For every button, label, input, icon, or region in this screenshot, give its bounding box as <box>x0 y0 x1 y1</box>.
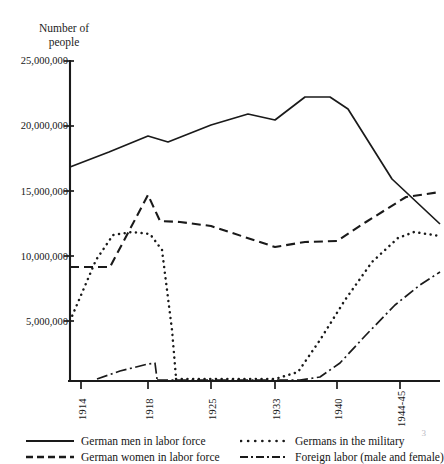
series-line-german-women <box>70 192 440 267</box>
series-line-military-ww2 <box>176 232 440 379</box>
series-line-military-ww1 <box>70 232 176 378</box>
legend-label-german-women: German women in labor force <box>81 451 220 463</box>
series-line-german-men <box>70 97 440 224</box>
legend-item-foreign-labor: Foreign labor (male and female) <box>240 449 444 464</box>
legend-item-german-men: German men in labor force <box>26 433 206 448</box>
legend-item-german-women: German women in labor force <box>26 449 220 464</box>
legend-label-military: Germans in the military <box>295 435 405 447</box>
legend-item-military: Germans in the military <box>240 433 405 448</box>
legend-label-german-men: German men in labor force <box>81 435 206 447</box>
x-axis-ticks <box>81 381 400 389</box>
legend-sample-dotted-icon <box>240 435 288 447</box>
legend-sample-solid-icon <box>26 435 74 447</box>
series-line-foreign-labor-ww1 <box>97 363 157 379</box>
legend-sample-dash-dot-icon <box>240 451 288 463</box>
series-line-foreign-labor-ww2 <box>157 272 440 380</box>
chart-legend: German men in labor force German women i… <box>0 432 442 463</box>
legend-sample-dashed-icon <box>26 451 74 463</box>
plot-area <box>0 0 442 432</box>
legend-label-foreign-labor: Foreign labor (male and female) <box>295 451 444 463</box>
